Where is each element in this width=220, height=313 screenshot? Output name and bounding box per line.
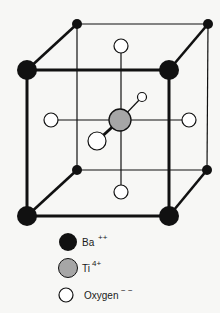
ba-atom — [159, 206, 179, 226]
svg-text:Oxygen: Oxygen — [84, 290, 118, 301]
ba-atom — [72, 165, 82, 175]
legend-label-ti: Ti — [82, 263, 90, 274]
oxygen-atom-top — [114, 39, 128, 53]
oxygen-atom-right — [182, 113, 196, 127]
legend-item-ti: Ti 4+ — [59, 259, 102, 278]
perovskite-unit-cell-diagram: Ba ++ Ti 4+ Oxygen − − — [0, 0, 220, 313]
ba-atom — [72, 19, 82, 29]
legend-charge-ba: ++ — [98, 233, 108, 242]
svg-text:Ba: Ba — [82, 237, 95, 248]
legend-charge-ti: 4+ — [92, 259, 101, 268]
legend-label-ba: Ba — [82, 237, 95, 248]
svg-text:Ti: Ti — [82, 263, 90, 274]
legend-item-oxygen: Oxygen − − — [59, 286, 133, 302]
ba-atom — [159, 60, 179, 80]
svg-text:− −: − − — [121, 286, 133, 295]
svg-text:4+: 4+ — [92, 259, 101, 268]
legend-label-oxygen: Oxygen — [84, 290, 118, 301]
oxygen-legend-icon — [59, 288, 73, 302]
oxygen-atom-front — [88, 132, 106, 150]
ba-atom — [202, 165, 212, 175]
legend-charge-oxygen: − − — [121, 286, 133, 295]
legend: Ba ++ Ti 4+ Oxygen − − — [59, 233, 133, 302]
svg-text:++: ++ — [98, 233, 108, 242]
ba-atom — [17, 206, 37, 226]
legend-item-ba: Ba ++ — [59, 233, 108, 251]
ti-atom — [109, 109, 131, 131]
oxygen-atom-bottom — [114, 185, 128, 199]
ba-atom — [17, 60, 37, 80]
oxygen-atom-left — [44, 113, 58, 127]
ba-legend-icon — [59, 233, 77, 251]
oxygen-atom-back — [138, 93, 147, 102]
ba-atom — [203, 19, 213, 29]
ti-legend-icon — [59, 259, 78, 278]
